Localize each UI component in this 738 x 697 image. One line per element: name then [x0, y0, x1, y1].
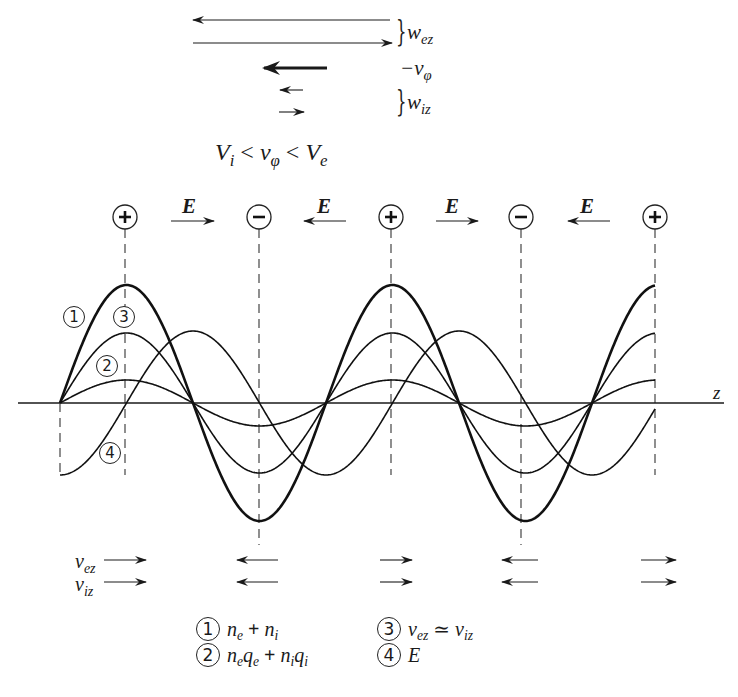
- legend-expr-3: vez ≃ viz: [408, 619, 473, 643]
- field-label-1: E: [182, 196, 196, 217]
- curve-label-2: 2: [96, 355, 118, 377]
- v-iz-row-label: viz: [75, 574, 93, 599]
- z-axis-label: z: [713, 383, 720, 402]
- curve-label-4: 4: [99, 442, 121, 464]
- wave-plot: [0, 0, 738, 697]
- velocity-key-arrows: [193, 20, 392, 112]
- w-ez-brace: }: [396, 16, 407, 46]
- field-label-4: E: [580, 196, 594, 217]
- minus-v-phi-label: −vφ: [400, 58, 432, 83]
- phase-velocity-condition: Vi < vφ < Ve: [215, 140, 328, 170]
- charge-dashed-lines: [125, 229, 655, 545]
- legend-num-2: 2: [196, 643, 220, 667]
- legend-expr-1: ne + ni: [227, 619, 278, 643]
- ion-acoustic-wave-diagram: } wez −vφ } wiz Vi < vφ < Ve E E E E z 1…: [0, 0, 738, 697]
- legend-expr-2: neqe + niqi: [227, 645, 308, 669]
- field-label-3: E: [445, 196, 459, 217]
- field-label-2: E: [317, 196, 331, 217]
- legend-num-4: 4: [377, 643, 401, 667]
- w-iz-brace: }: [396, 86, 407, 116]
- legend-expr-4: E: [408, 645, 420, 665]
- particle-velocity-arrows: [104, 560, 676, 582]
- legend-num-3: 3: [377, 617, 401, 641]
- w-iz-label: wiz: [407, 92, 431, 117]
- curve-label-1: 1: [63, 306, 85, 328]
- curve-label-3: 3: [113, 306, 135, 328]
- w-ez-label: wez: [407, 22, 433, 47]
- legend-num-1: 1: [196, 617, 220, 641]
